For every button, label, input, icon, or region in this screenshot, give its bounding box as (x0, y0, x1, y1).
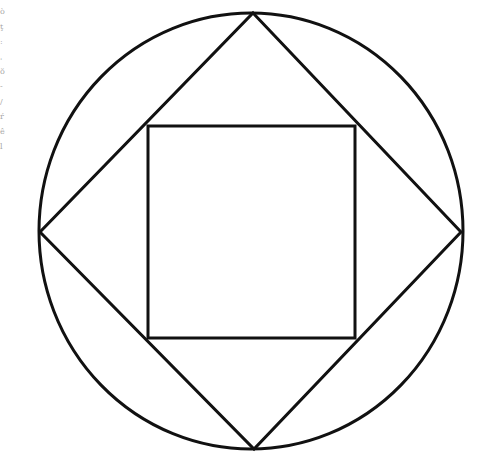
inner-square (148, 126, 355, 338)
outer-circle (39, 13, 463, 449)
geometry-diagram (0, 0, 491, 465)
inscribed-diamond (40, 13, 461, 449)
